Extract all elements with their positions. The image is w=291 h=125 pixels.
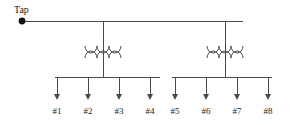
load-feeder-group <box>54 77 271 100</box>
load-8-label: #8 <box>264 106 274 116</box>
load-4-feeder <box>147 77 153 100</box>
load-4-arrow-icon <box>147 94 153 100</box>
load-3-label: #3 <box>115 106 125 116</box>
load-5-arrow-icon <box>172 94 178 100</box>
load-7-label: #7 <box>233 106 243 116</box>
load-8-feeder <box>265 77 271 100</box>
load-6-feeder <box>203 77 209 100</box>
tap-label: Tap <box>14 4 29 15</box>
load-1-arrow-icon <box>54 94 60 100</box>
transformer-group <box>85 21 243 77</box>
load-2-arrow-icon <box>85 94 91 100</box>
load-7-feeder <box>234 77 240 100</box>
load-2-feeder <box>85 77 91 100</box>
load-5-label: #5 <box>171 106 181 116</box>
diagram-canvas: #1#2#3#4#5#6#7#8Tap <box>0 0 291 125</box>
transformer-left <box>85 21 121 77</box>
load-1-feeder <box>54 77 60 100</box>
load-6-label: #6 <box>202 106 212 116</box>
load-2-label: #2 <box>84 106 93 116</box>
tap-node <box>19 18 26 25</box>
load-1-label: #1 <box>53 106 62 116</box>
transformer-right <box>207 21 243 77</box>
load-5-feeder <box>172 77 178 100</box>
load-6-arrow-icon <box>203 94 209 100</box>
load-3-feeder <box>116 77 122 100</box>
load-8-arrow-icon <box>265 94 271 100</box>
load-3-arrow-icon <box>116 94 122 100</box>
load-4-label: #4 <box>146 106 156 116</box>
main-feeder-group <box>19 18 243 25</box>
one-line-diagram: #1#2#3#4#5#6#7#8Tap <box>0 0 291 125</box>
load-7-arrow-icon <box>234 94 240 100</box>
